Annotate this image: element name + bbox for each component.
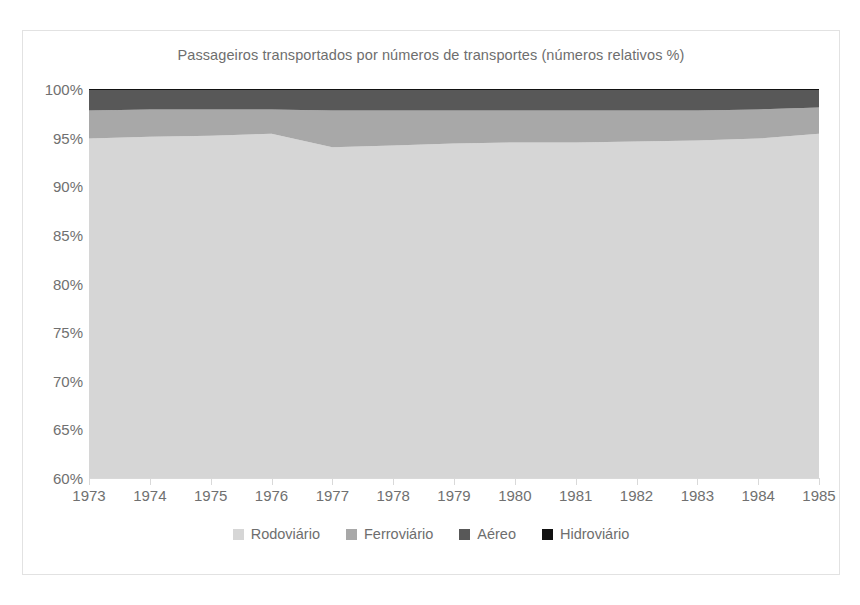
y-axis: 100%95%90%85%80%75%70%65%60%: [23, 89, 83, 478]
x-tick-label: 1975: [194, 487, 227, 504]
x-tick-mark: [637, 478, 638, 485]
x-tick-mark: [697, 478, 698, 485]
x-tick-label: 1984: [741, 487, 774, 504]
x-tick-label: 1973: [72, 487, 105, 504]
legend-label: Rodoviário: [251, 526, 320, 542]
legend-label: Aéreo: [477, 526, 516, 542]
x-tick-label: 1977: [316, 487, 349, 504]
legend-swatch-icon: [346, 529, 357, 540]
legend-label: Ferroviário: [364, 526, 433, 542]
x-tick-mark: [454, 478, 455, 485]
legend-item-ferrovirio[interactable]: Ferroviário: [346, 526, 433, 542]
legend-item-rodovirio[interactable]: Rodoviário: [233, 526, 320, 542]
x-tick-label: 1981: [559, 487, 592, 504]
x-tick-mark: [819, 478, 820, 485]
x-tick-label: 1982: [620, 487, 653, 504]
y-tick-label: 75%: [53, 324, 83, 341]
x-axis-labels: 1973197419751976197719781979198019811982…: [89, 487, 819, 511]
y-tick-label: 100%: [45, 81, 83, 98]
legend-swatch-icon: [542, 529, 553, 540]
x-tick-mark: [150, 478, 151, 485]
y-tick-label: 70%: [53, 372, 83, 389]
x-tick-mark: [576, 478, 577, 485]
stacked-area-plot: [89, 89, 819, 478]
x-tick-mark: [758, 478, 759, 485]
legend-swatch-icon: [233, 529, 244, 540]
area-series-svg: [89, 89, 819, 478]
x-tick-mark: [332, 478, 333, 485]
legend-item-areo[interactable]: Aéreo: [459, 526, 516, 542]
x-tick-mark: [89, 478, 90, 485]
x-tick-mark: [272, 478, 273, 485]
x-tick-label: 1980: [498, 487, 531, 504]
x-axis-ticks: [89, 478, 819, 485]
y-tick-label: 65%: [53, 421, 83, 438]
legend-swatch-icon: [459, 529, 470, 540]
legend-label: Hidroviário: [560, 526, 629, 542]
legend-item-hidrovirio[interactable]: Hidroviário: [542, 526, 629, 542]
area-band-rodovirio: [89, 134, 819, 478]
x-tick-label: 1976: [255, 487, 288, 504]
chart-legend: RodoviárioFerroviárioAéreoHidroviário: [23, 526, 839, 542]
plot-area: [89, 89, 819, 478]
area-band-hidrovirio: [89, 89, 819, 90]
x-tick-label: 1978: [376, 487, 409, 504]
y-tick-label: 95%: [53, 129, 83, 146]
x-tick-label: 1974: [133, 487, 166, 504]
y-tick-label: 60%: [53, 470, 83, 487]
y-tick-label: 90%: [53, 178, 83, 195]
x-tick-mark: [211, 478, 212, 485]
y-tick-label: 80%: [53, 275, 83, 292]
x-tick-label: 1979: [437, 487, 470, 504]
x-tick-label: 1985: [802, 487, 835, 504]
x-tick-label: 1983: [681, 487, 714, 504]
y-tick-label: 85%: [53, 226, 83, 243]
x-tick-mark: [393, 478, 394, 485]
chart-title: Passageiros transportados por números de…: [23, 47, 839, 63]
x-tick-mark: [515, 478, 516, 485]
chart-frame: Passageiros transportados por números de…: [22, 30, 840, 575]
area-band-areo: [89, 90, 819, 110]
